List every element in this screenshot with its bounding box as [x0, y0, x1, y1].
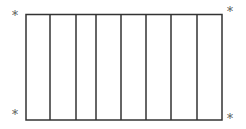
corner-asterisk-bottom-left: *: [12, 109, 18, 121]
outer-rectangle: [26, 15, 222, 121]
divider-lines: [50, 15, 197, 121]
corner-asterisk-bottom-right: *: [227, 113, 233, 125]
strip-diagram: [0, 0, 246, 129]
corner-asterisk-top-left: *: [12, 10, 18, 22]
corner-asterisk-top-right: *: [227, 6, 233, 18]
